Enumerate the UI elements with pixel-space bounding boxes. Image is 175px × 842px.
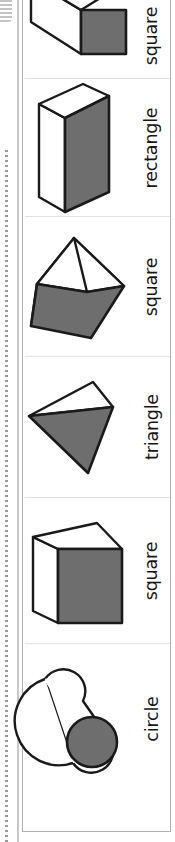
- solid-figure: [23, 357, 133, 497]
- cylinder-icon: [25, 663, 131, 775]
- label-text: square: [142, 541, 162, 599]
- worksheet-page: square rectangle: [0, 0, 175, 842]
- cross-section-label: rectangle: [133, 79, 170, 216]
- label-text: square: [142, 7, 162, 65]
- cross-section-label: triangle: [133, 357, 170, 497]
- solid-figure: [23, 217, 133, 356]
- cross-section-label: circle: [133, 644, 170, 794]
- spiral-binding-icon: [0, 0, 12, 22]
- shape-row[interactable]: square: [23, 217, 170, 356]
- cube-icon: [25, 515, 131, 627]
- label-text: rectangle: [142, 107, 162, 188]
- cross-section-label: square: [133, 217, 170, 356]
- solid-figure: [23, 644, 133, 794]
- solid-figure: [23, 79, 133, 216]
- square-pyramid-icon: [25, 228, 131, 346]
- long-square-prism-icon: [25, 0, 131, 76]
- cross-section-label: square: [133, 498, 170, 643]
- shape-row-list: square rectangle: [23, 0, 170, 831]
- rectangular-prism-icon: [25, 84, 131, 212]
- cross-section-label: square: [133, 0, 170, 78]
- worksheet-card: square rectangle: [22, 0, 171, 832]
- shape-row[interactable]: square: [23, 0, 170, 78]
- label-text: triangle: [142, 394, 162, 460]
- tetrahedron-icon: [25, 370, 131, 485]
- solid-figure: [23, 0, 133, 78]
- dotted-margin-rail: [5, 150, 8, 842]
- shape-row[interactable]: triangle: [23, 357, 170, 497]
- shape-row[interactable]: rectangle: [23, 79, 170, 216]
- label-text: square: [142, 257, 162, 315]
- solid-figure: [23, 498, 133, 643]
- shape-row[interactable]: circle: [23, 644, 170, 794]
- label-text: circle: [142, 696, 162, 741]
- shape-row[interactable]: square: [23, 498, 170, 643]
